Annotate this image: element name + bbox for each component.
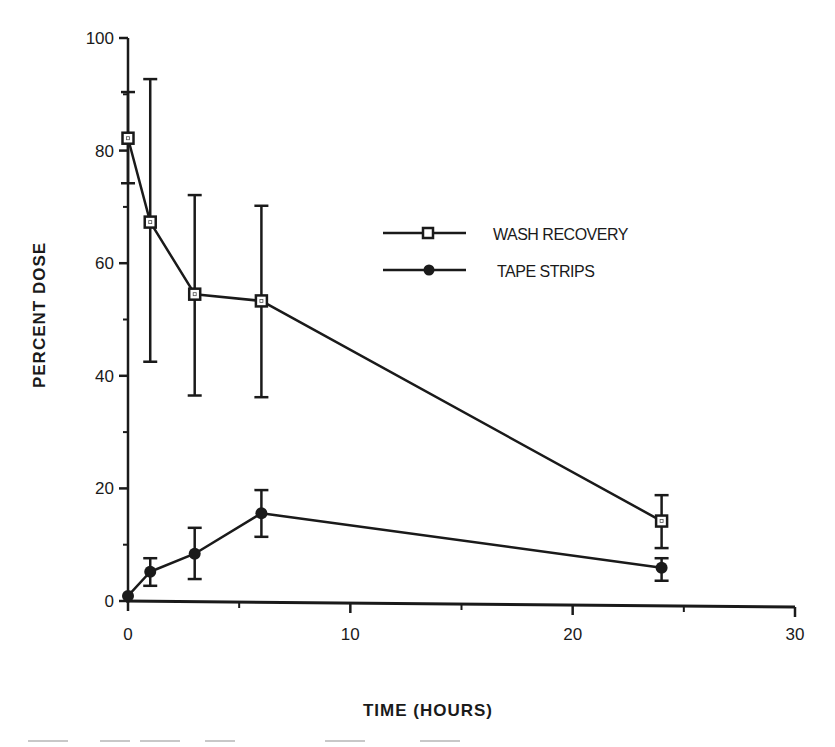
legend-item-tape-strips: TAPE STRIPS <box>383 263 594 280</box>
x-tick-label: 30 <box>786 625 805 644</box>
series-line <box>128 513 662 596</box>
diamond-marker-icon <box>189 548 201 560</box>
diamond-marker-icon <box>255 507 267 519</box>
y-axis-title: PERCENT DOSE <box>30 242 49 388</box>
chart-area: 0204060801000102030 WASH RECOVERYTAPE ST… <box>0 0 835 747</box>
y-tick-label: 40 <box>95 367 114 386</box>
square-marker-icon <box>256 295 267 306</box>
legend-item-wash-recovery: WASH RECOVERY <box>383 226 629 243</box>
square-marker-icon <box>145 217 156 228</box>
legend-label: WASH RECOVERY <box>493 226 629 243</box>
x-tick-label: 20 <box>563 625 582 644</box>
y-tick-label: 80 <box>95 142 114 161</box>
diamond-marker-icon <box>424 265 435 276</box>
square-marker-icon <box>423 228 433 238</box>
diamond-marker-icon <box>656 562 668 574</box>
square-marker-icon <box>123 133 134 144</box>
figure-caption-cropped <box>0 740 835 747</box>
legend-label: TAPE STRIPS <box>497 263 594 280</box>
y-tick-label: 0 <box>105 592 114 611</box>
diamond-marker-icon <box>144 566 156 578</box>
y-tick-label: 100 <box>86 29 114 48</box>
plot-series <box>121 79 669 602</box>
legend: WASH RECOVERYTAPE STRIPS <box>383 226 629 280</box>
x-axis-title: TIME (HOURS) <box>363 701 493 720</box>
x-tick-label: 0 <box>123 625 132 644</box>
series-line <box>128 138 662 521</box>
y-tick-label: 60 <box>95 254 114 273</box>
series-tape-strips <box>122 490 669 602</box>
square-marker-icon <box>656 516 667 527</box>
diamond-marker-icon <box>122 590 134 602</box>
series-wash-recovery <box>121 79 669 548</box>
y-tick-label: 20 <box>95 479 114 498</box>
x-tick-label: 10 <box>341 625 360 644</box>
square-marker-icon <box>189 289 200 300</box>
